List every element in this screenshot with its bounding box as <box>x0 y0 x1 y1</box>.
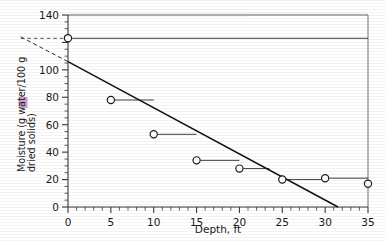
data-point <box>150 131 157 138</box>
x-tick-label-10: 10 <box>147 216 160 228</box>
data-point-markers <box>64 35 371 188</box>
data-point <box>279 176 286 183</box>
x-tick-label-0: 0 <box>65 216 72 228</box>
x-tick-label-35: 35 <box>361 216 374 228</box>
x-tick-label-25: 25 <box>276 216 289 228</box>
data-point <box>322 175 329 182</box>
x-axis-ticks <box>68 207 368 213</box>
data-point <box>236 165 243 172</box>
y-tick-label-60: 60 <box>46 119 59 131</box>
guide-lines <box>21 37 68 62</box>
data-point <box>193 157 200 164</box>
whisker-segments <box>72 38 368 179</box>
y-tick-label-0: 0 <box>52 201 59 213</box>
y-axis-title: Moisture (g water/100 g dried solids) <box>16 57 37 172</box>
data-point <box>107 96 114 103</box>
data-point <box>364 180 371 187</box>
y-tick-label-100: 100 <box>39 64 59 76</box>
y-tick-label-80: 80 <box>46 91 59 103</box>
data-point <box>64 35 71 42</box>
regression-line <box>68 62 338 207</box>
scatter-chart: 020406080100140 05101520253035 Depth, ft… <box>0 0 385 241</box>
y-tick-label-20: 20 <box>46 173 59 185</box>
x-tick-label-5: 5 <box>108 216 115 228</box>
chart-figure: 020406080100140 05101520253035 Depth, ft… <box>0 0 385 241</box>
y-axis-title-line2: dried solids) <box>26 113 37 172</box>
y-tick-label-40: 40 <box>46 146 59 158</box>
y-axis-ticks <box>62 15 68 207</box>
y-axis-tick-labels: 020406080100140 <box>39 9 59 213</box>
x-axis-title: Depth, ft <box>195 223 241 235</box>
y-tick-label-140: 140 <box>39 9 59 21</box>
x-tick-label-30: 30 <box>318 216 331 228</box>
extrapolated-fit-line <box>21 37 68 62</box>
